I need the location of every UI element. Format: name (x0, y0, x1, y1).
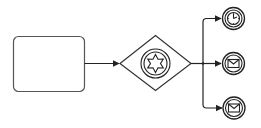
split-junction-dot (202, 62, 204, 64)
event-based-gateway[interactable] (120, 36, 191, 91)
bpmn-canvas (0, 0, 261, 128)
timer-event[interactable] (223, 8, 245, 30)
sequence-flow-to-timer[interactable] (203, 19, 221, 64)
sequence-flow-to-message-2[interactable] (203, 64, 222, 109)
task-node[interactable] (14, 37, 85, 92)
message-event-2[interactable] (223, 97, 245, 119)
message-event-1[interactable] (223, 53, 245, 75)
